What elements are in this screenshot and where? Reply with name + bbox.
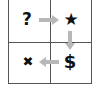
question-mark-icon: ?	[20, 11, 34, 28]
arrow-right-icon	[38, 14, 60, 26]
arrow-down-icon	[64, 31, 76, 51]
star-icon: ★	[62, 11, 80, 28]
arrow-left-icon	[38, 56, 60, 68]
dollar-icon: $	[63, 53, 77, 71]
x-mark-icon: ✖	[21, 55, 35, 68]
grid-line-center	[8, 42, 92, 43]
grid-line-bottom	[8, 83, 92, 84]
